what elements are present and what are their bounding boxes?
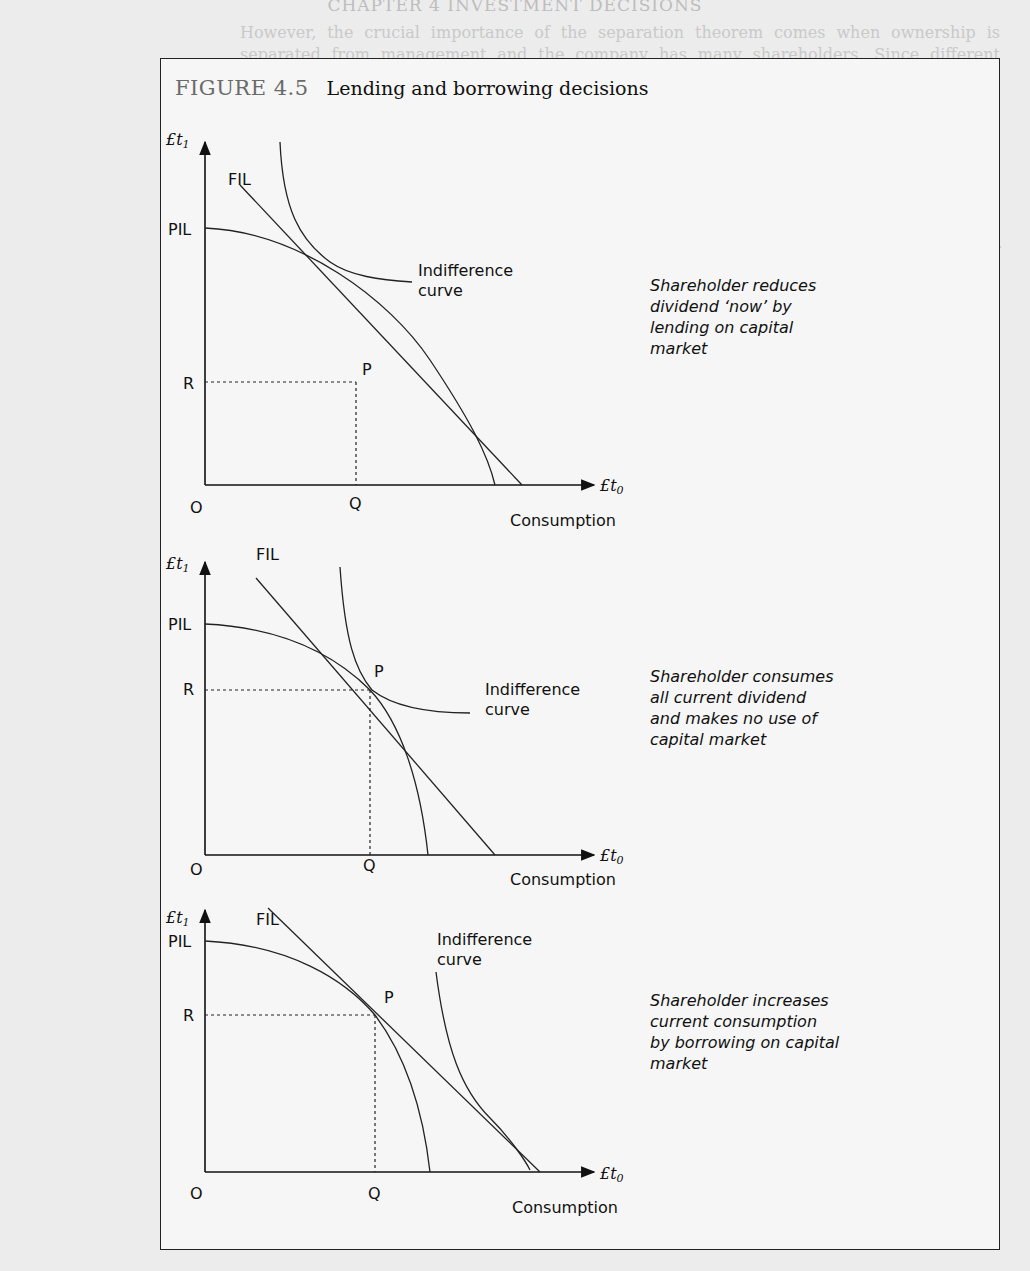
q-label: Q <box>349 496 362 512</box>
annotation-lending: Shareholder reducesdividend ‘now’ bylend… <box>650 275 850 359</box>
pil-label: PIL <box>168 617 191 633</box>
p-label: P <box>384 990 394 1006</box>
origin-label: O <box>190 1186 203 1202</box>
pil-label: PIL <box>168 934 191 950</box>
fil-label: FIL <box>256 912 279 928</box>
consumption-label: Consumption <box>512 1200 618 1216</box>
indifference-curve <box>340 567 470 713</box>
panel-borrowing <box>205 908 594 1172</box>
pil-label: PIL <box>168 222 191 238</box>
y-axis-label: £t1 <box>166 132 190 150</box>
x-axis-label: £t0 <box>600 478 624 496</box>
x-axis-label: £t0 <box>600 1166 624 1184</box>
x-axis-label: £t0 <box>600 848 624 866</box>
annotation-borrowing: Shareholder increasescurrent consumption… <box>650 990 850 1074</box>
indifference-label: Indifferencecurve <box>418 263 513 299</box>
q-label: Q <box>368 1186 381 1202</box>
fil-label: FIL <box>256 547 279 563</box>
lending-borrowing-diagram <box>0 0 1030 1271</box>
p-label: P <box>362 362 372 378</box>
indifference-label: Indifferencecurve <box>485 682 580 718</box>
fil-line <box>256 578 495 855</box>
q-label: Q <box>363 858 376 874</box>
r-label: R <box>183 682 194 698</box>
panel-lending <box>205 142 594 485</box>
y-axis-label: £t1 <box>166 910 190 928</box>
consumption-label: Consumption <box>510 513 616 529</box>
consumption-label: Consumption <box>510 872 616 888</box>
r-label: R <box>183 376 194 392</box>
r-label: R <box>183 1008 194 1024</box>
origin-label: O <box>190 862 203 878</box>
origin-label: O <box>190 500 203 516</box>
indifference-label: Indifferencecurve <box>437 932 532 968</box>
indifference-curve <box>436 972 530 1170</box>
fil-label: FIL <box>228 172 251 188</box>
pil-curve <box>205 941 430 1172</box>
fil-line <box>240 185 522 485</box>
p-label: P <box>374 664 384 680</box>
annotation-no-market: Shareholder consumesall current dividend… <box>650 666 850 750</box>
y-axis-label: £t1 <box>166 556 190 574</box>
indifference-curve <box>280 142 412 282</box>
